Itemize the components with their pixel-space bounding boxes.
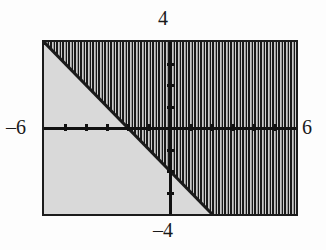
y-axis [169,42,172,214]
y-axis-min-label: –4 [0,220,326,240]
plot-area [44,42,296,214]
graph-screenshot: 4 –4 –6 6 [0,0,326,250]
x-axis-tick [106,124,109,131]
y-axis-tick [167,106,174,109]
y-axis-tick [167,149,174,152]
y-axis-max-label: 4 [0,8,326,28]
y-axis-tick [167,84,174,87]
plot-frame [42,40,298,216]
x-axis-tick [190,124,193,131]
x-axis-tick [232,124,235,131]
x-axis-max-label: 6 [302,117,312,137]
x-axis-min-label: –6 [6,117,26,137]
x-axis-tick [64,124,67,131]
y-axis-tick [167,63,174,66]
x-axis-tick [127,124,130,131]
x-axis-tick [211,124,214,131]
x-axis-tick [274,124,277,131]
y-axis-tick [167,192,174,195]
y-axis-tick [167,170,174,173]
x-axis-tick [85,124,88,131]
x-axis-tick [253,124,256,131]
x-axis-tick [148,124,151,131]
